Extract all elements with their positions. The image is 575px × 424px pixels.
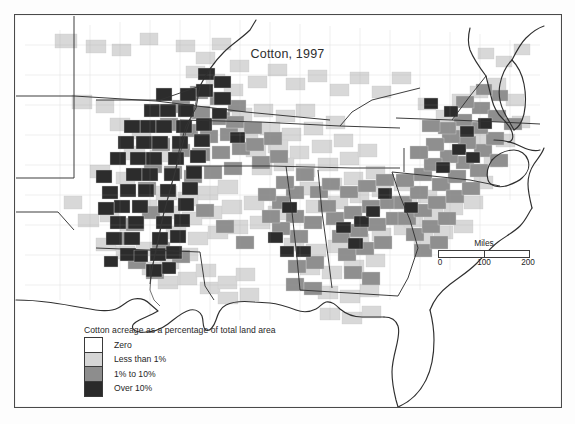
legend-swatch-over-10 [85, 382, 102, 397]
legend-caption: Cotton acreage as a percentage of total … [84, 325, 304, 335]
legend-swatch-1-to-10 [85, 367, 102, 382]
legend-swatch-column [84, 337, 103, 397]
scale-tick-0: 0 [438, 258, 443, 267]
legend-label-column: Zero Less than 1% 1% to 10% Over 10% [114, 337, 166, 396]
map-title: Cotton, 1997 [0, 47, 575, 61]
legend-label-less-than-1: Less than 1% [114, 352, 166, 367]
scale-bar-segment-1 [439, 251, 485, 257]
scale-bar-title: Miles [438, 238, 530, 248]
scale-tick-200: 200 [521, 258, 535, 267]
map-legend: Cotton acreage as a percentage of total … [84, 325, 304, 397]
scale-bar-segment-2 [485, 251, 530, 257]
legend-swatch-less-than-1 [85, 353, 102, 368]
legend-label-1-to-10: 1% to 10% [114, 367, 166, 382]
scale-tick-100: 100 [477, 258, 491, 267]
legend-swatch-zero [85, 338, 102, 353]
scale-bar-graphic [438, 250, 530, 258]
scale-bar-tick-labels: 0 100 200 [438, 258, 530, 269]
legend-label-zero: Zero [114, 338, 166, 353]
cotton-acreage-map-figure: Cotton, 1997 Cotton acreage as a percent… [0, 0, 575, 424]
map-scale-bar: Miles 0 100 200 [438, 238, 530, 269]
legend-label-over-10: Over 10% [114, 381, 166, 396]
